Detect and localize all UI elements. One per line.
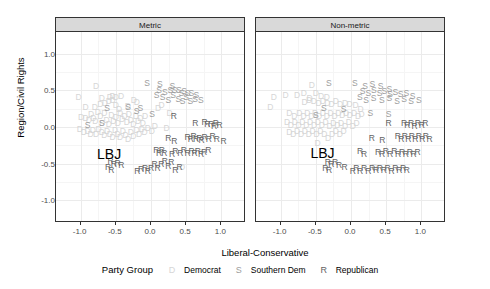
facet-strip: Metric (55, 17, 245, 32)
data-point: D (358, 110, 364, 119)
data-point: D (342, 98, 348, 107)
data-point: R (423, 132, 429, 141)
gridline-major-vertical (186, 32, 187, 221)
data-point: D (142, 112, 148, 121)
data-point: D (81, 128, 87, 137)
data-point: R (402, 132, 408, 141)
data-point: D (306, 94, 312, 103)
legend-item-southern-dem[interactable]: SSouthern Dem (231, 265, 306, 275)
data-point: R (379, 150, 385, 159)
data-point: D (306, 130, 312, 139)
data-point: S (378, 82, 384, 91)
legend-item-label: Republican (336, 265, 379, 275)
y-tick-label: 1.0 (29, 49, 55, 58)
gridline-minor-horizontal (256, 145, 444, 146)
data-point: S (370, 80, 376, 89)
data-point: D (339, 111, 345, 120)
data-point: D (325, 133, 331, 142)
data-point: S (392, 88, 398, 97)
data-point: R (422, 118, 428, 127)
data-point: R (195, 147, 201, 156)
data-point: D (320, 96, 326, 105)
data-point: D (341, 127, 347, 136)
data-point: S (162, 88, 168, 97)
data-point: D (303, 121, 309, 130)
data-point: D (324, 99, 330, 108)
gridline-major-vertical (316, 32, 317, 221)
data-point: D (335, 109, 341, 118)
gridline-minor-horizontal (56, 182, 244, 183)
data-point: R (407, 148, 413, 157)
facet-strip-label: Metric (56, 18, 244, 33)
data-point: R (171, 137, 177, 146)
x-tick-mark (350, 222, 351, 225)
data-point: R (379, 136, 385, 145)
data-point: R (395, 132, 401, 141)
data-point: R (159, 145, 165, 154)
data-point: D (86, 116, 92, 125)
data-point: D (110, 96, 116, 105)
gridline-major-horizontal (56, 164, 244, 165)
data-point: D (296, 109, 302, 118)
gridline-major-vertical (151, 32, 152, 221)
data-point: D (304, 109, 310, 118)
data-point: D (99, 94, 105, 103)
data-point: R (188, 147, 194, 156)
data-point: D (87, 130, 93, 139)
data-point: R (169, 150, 175, 159)
plot-area: DDDDDDDDDDDDDDDDDDDDDDDDDDDDDDDDDDDDDDDD… (255, 32, 445, 222)
data-point: D (134, 98, 140, 107)
data-point: D (347, 111, 353, 120)
data-point: R (387, 150, 393, 159)
y-tick-label: -1.0 (29, 196, 55, 205)
legend-glyph: S (231, 265, 247, 275)
legend-item-republican[interactable]: RRepublican (316, 265, 379, 275)
data-point: D (292, 118, 298, 127)
legend-item-label: Southern Dem (251, 265, 306, 275)
facet-panel: MetricDDDDDDDDDDDDDDDDDDDDDDDDDDDDDDDDDD… (55, 17, 245, 222)
data-point: D (90, 114, 96, 123)
data-point: D (117, 133, 123, 142)
data-point: D (337, 130, 343, 139)
data-point: R (357, 147, 363, 156)
gridline-major-vertical (81, 32, 82, 221)
legend-item-democrat[interactable]: DDemocrat (164, 265, 221, 275)
gridline-minor-horizontal (256, 182, 444, 183)
data-point: D (106, 97, 112, 106)
data-point: D (307, 118, 313, 127)
data-point: R (326, 166, 332, 175)
data-point: S (157, 80, 163, 89)
x-tick-label: -1.0 (65, 227, 95, 236)
data-point: D (342, 121, 348, 130)
data-point: D (300, 112, 306, 121)
data-point: D (88, 110, 94, 119)
data-point: R (357, 167, 363, 176)
data-point: R (322, 163, 328, 172)
data-point: D (82, 114, 88, 123)
data-point: D (334, 121, 340, 130)
data-point: S (99, 118, 105, 127)
data-point: S (170, 81, 176, 90)
x-tick-mark (385, 222, 386, 225)
data-point: R (206, 135, 212, 144)
data-point: R (409, 132, 415, 141)
x-tick-mark (420, 222, 421, 225)
data-point: D (306, 96, 312, 105)
data-point: D (152, 121, 158, 130)
data-point: R (404, 166, 410, 175)
data-point: D (343, 109, 349, 118)
data-point: R (211, 121, 217, 130)
data-point: R (193, 135, 199, 144)
data-point: D (107, 93, 113, 102)
data-point: S (85, 121, 91, 130)
data-point: D (136, 130, 142, 139)
gridline-major-vertical (351, 32, 352, 221)
data-point: D (122, 111, 128, 120)
data-point: D (120, 127, 126, 136)
gridline-minor-horizontal (56, 72, 244, 73)
data-point: D (99, 128, 105, 137)
data-point: R (412, 121, 418, 130)
data-point: D (351, 109, 357, 118)
data-point: R (375, 148, 381, 157)
gridline-major-vertical (281, 32, 282, 221)
